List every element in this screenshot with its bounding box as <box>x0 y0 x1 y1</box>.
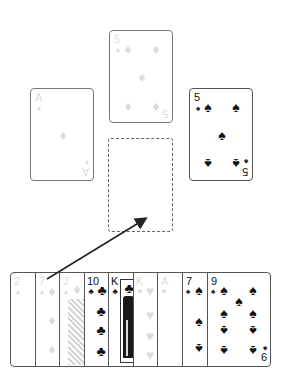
club-icon: ♣ <box>96 344 105 358</box>
spade-icon: ♠ <box>249 283 256 297</box>
spade-icon: ♠ <box>244 157 248 165</box>
club-icon: ♣ <box>112 288 117 296</box>
spade-icon: ♠ <box>195 283 202 297</box>
diamond-icon: ♦ <box>40 289 44 297</box>
spade-icon: ♠ <box>249 324 256 338</box>
hand-card-7-spades[interactable]: 7 ♠ ♠ ♠ ♠ <box>182 272 208 367</box>
spade-icon: ♠ <box>211 288 215 296</box>
club-icon: ♣ <box>88 288 93 296</box>
spade-icon: ♠ <box>218 128 225 142</box>
spade-icon: ♠ <box>195 342 202 356</box>
card-5-diamonds-top[interactable]: 5 ♦ ♦ ♦ ♦ ♦ ♦ 5 <box>109 30 173 123</box>
spade-icon: ♠ <box>220 283 227 297</box>
card-rank: 5 <box>194 92 200 103</box>
diamond-icon: ♦ <box>48 284 55 298</box>
club-icon: ♣ <box>96 323 105 337</box>
king-sword <box>126 320 128 356</box>
heart-icon: ♥ <box>138 288 143 296</box>
hand-card-king-clubs[interactable]: K ♣ ♣ <box>108 272 134 367</box>
spade-icon: ♠ <box>220 306 227 320</box>
hand-card-ace-hearts[interactable]: A ♥ <box>157 272 183 367</box>
heart-icon: ♥ <box>146 329 154 343</box>
card-rank: 7 <box>186 276 192 287</box>
diamond-icon: ♦ <box>16 289 20 297</box>
card-rank-bottom: A <box>82 166 89 177</box>
card-rank: A <box>161 276 168 287</box>
spade-icon: ♠ <box>186 288 190 296</box>
card-rank: A <box>35 92 42 103</box>
spade-icon: ♠ <box>220 324 227 338</box>
card-5-spades-right[interactable]: 5 ♠ ♠ ♠ ♠ ♠ ♠ ♠ 5 <box>189 88 253 181</box>
diamond-icon: ♦ <box>152 99 159 113</box>
spade-icon: ♠ <box>232 157 239 171</box>
diamond-icon: ♦ <box>64 289 68 297</box>
card-rank: 2 <box>14 276 20 287</box>
heart-icon: ♥ <box>146 308 154 322</box>
club-icon: ♣ <box>96 304 105 318</box>
card-rank: 9 <box>211 276 217 287</box>
heart-icon: ♥ <box>162 288 167 296</box>
heart-icon: ♥ <box>146 348 154 362</box>
spade-icon: ♠ <box>220 344 227 358</box>
spade-icon: ♠ <box>195 314 202 328</box>
diamond-icon: ♦ <box>73 282 80 296</box>
diamond-icon: ♦ <box>124 99 131 113</box>
card-rank: 5 <box>114 34 120 45</box>
hand-card-10-clubs[interactable]: 10 ♣ ♣ ♣ ♣ ♣ <box>84 272 109 367</box>
card-ace-diamonds-left[interactable]: A ♦ ♦ ♦ A <box>30 88 94 181</box>
heart-icon: ♥ <box>146 284 154 298</box>
empty-card-slot[interactable] <box>108 138 173 232</box>
hand-card-jack-diamonds[interactable]: J ♦ ♦ <box>59 272 85 367</box>
diamond-icon: ♦ <box>152 42 159 56</box>
card-rank: 7 <box>39 276 45 287</box>
spade-icon: ♠ <box>249 306 256 320</box>
spade-icon: ♠ <box>235 294 242 308</box>
card-rank-bottom: 5 <box>242 166 248 177</box>
diamond-icon: ♦ <box>48 313 55 327</box>
hand-card-king-hearts[interactable]: K ♥ ♥ ♥ ♥ ♥ <box>133 272 158 367</box>
club-icon: ♣ <box>97 283 106 297</box>
diamond-icon: ♦ <box>48 342 55 356</box>
card-rank: J <box>63 276 69 287</box>
diamond-icon: ♦ <box>138 70 145 84</box>
card-rank: K <box>136 276 143 287</box>
diamond-icon: ♦ <box>124 42 131 56</box>
card-rank: K <box>111 276 118 287</box>
spade-icon: ♠ <box>249 344 256 358</box>
diamond-icon: ♦ <box>116 47 120 55</box>
hand-card-2-diamonds[interactable]: 2 ♦ <box>10 272 36 367</box>
spade-icon: ♠ <box>204 157 211 171</box>
diamond-icon: ♦ <box>59 128 66 142</box>
card-rank-bottom: 6 <box>261 352 267 363</box>
card-rank-bottom: 5 <box>162 108 168 119</box>
diamond-icon: ♦ <box>37 105 41 113</box>
spade-icon: ♠ <box>196 105 200 113</box>
hand-card-7-diamonds[interactable]: 7 ♦ ♦ ♦ ♦ <box>35 272 60 367</box>
hand-card-9-spades[interactable]: 9 ♠ ♠ ♠ ♠ ♠ ♠ ♠ ♠ ♠ ♠ ♠ 6 <box>207 272 271 367</box>
spade-icon: ♠ <box>232 100 239 114</box>
spade-icon: ♠ <box>204 100 211 114</box>
